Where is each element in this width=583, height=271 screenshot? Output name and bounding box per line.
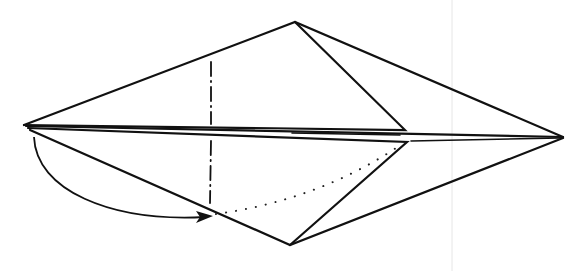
hidden-dotted-curve — [216, 144, 402, 214]
origami-diagram — [0, 0, 583, 271]
lower-flap-edge — [28, 128, 407, 245]
center-layer-right — [411, 138, 560, 141]
outer-lower-edge — [30, 130, 563, 245]
mountain-fold-line-lower — [210, 141, 211, 203]
fold-arrow-curve — [34, 137, 205, 218]
upper-flap-edge — [24, 22, 405, 130]
outer-upper-edge — [24, 22, 563, 137]
